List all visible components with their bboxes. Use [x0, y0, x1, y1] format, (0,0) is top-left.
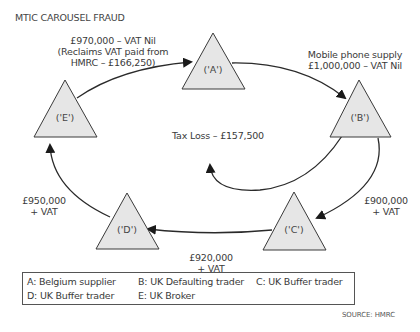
- edge-b-to-c-label: £900,000 + VAT: [356, 195, 416, 217]
- edge-b-to-c-line2: + VAT: [356, 206, 416, 217]
- edge-b-to-c-line1: £900,000: [356, 195, 416, 206]
- edge-e-to-a-line2: (Reclaims VAT paid from: [38, 46, 188, 57]
- source-credit: SOURCE: HMRC: [342, 311, 395, 319]
- legend-item-d: D: UK Buffer trader: [27, 290, 114, 301]
- edge-d-to-e-label: £950,000 + VAT: [14, 195, 74, 217]
- node-a: ('A'): [182, 33, 245, 89]
- edge-e-to-a-line1: £970,000 – VAT Nil: [38, 35, 188, 46]
- legend-item-c: C: UK Buffer trader: [256, 276, 343, 287]
- node-b-label: ('B'): [350, 112, 369, 123]
- tax-loss-label: Tax Loss – £157,500: [158, 130, 278, 141]
- edge-e-to-a-label: £970,000 – VAT Nil (Reclaims VAT paid fr…: [38, 35, 188, 68]
- edge-a-to-b-line1: Mobile phone supply: [295, 49, 415, 60]
- node-d: ('D'): [96, 193, 159, 249]
- node-c: ('C'): [263, 192, 326, 250]
- edge-d-to-e-line1: £950,000: [14, 195, 74, 206]
- edge-c-to-d-line1: £920,000: [181, 252, 241, 263]
- node-e-label: ('E'): [56, 112, 75, 123]
- edge-a-to-b-line2: £1,000,000 – VAT Nil: [295, 60, 415, 71]
- legend-item-b: B: UK Defaulting trader: [138, 276, 244, 287]
- node-d-label: ('D'): [117, 224, 137, 235]
- legend-item-e: E: UK Broker: [138, 290, 195, 301]
- edge-a-to-b-label: Mobile phone supply £1,000,000 – VAT Nil: [295, 49, 415, 71]
- node-b: ('B'): [330, 80, 391, 137]
- legend-item-a: A: Belgium supplier: [27, 276, 116, 287]
- edge-c-to-d: [148, 229, 272, 233]
- node-c-label: ('C'): [284, 224, 303, 235]
- legend-box: A: Belgium supplier B: UK Defaulting tra…: [22, 272, 355, 305]
- node-e: ('E'): [34, 80, 97, 137]
- edge-e-to-a-line3: HMRC – £166,250): [38, 57, 188, 68]
- edge-c-to-d-label: £920,000 + VAT: [181, 252, 241, 274]
- edge-d-to-e-line2: + VAT: [14, 206, 74, 217]
- node-a-label: ('A'): [203, 64, 222, 75]
- edge-b-tax-loss: [210, 136, 342, 190]
